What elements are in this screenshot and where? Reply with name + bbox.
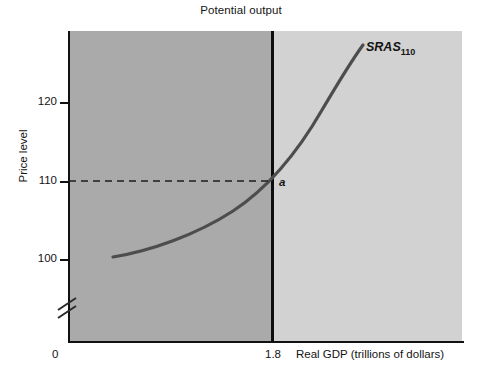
- y-tick-mark-100: [60, 259, 68, 261]
- x-axis-line: [68, 341, 464, 343]
- plot-area: [68, 31, 462, 341]
- x-axis-label: Real GDP (trillions of dollars): [296, 348, 444, 360]
- y-tick-mark-120: [60, 102, 68, 104]
- y-axis-label: Price level: [17, 111, 29, 201]
- sras-curve-label-subscript: 110: [401, 47, 416, 57]
- y-tick-mark-110: [60, 181, 68, 183]
- chart-title: Potential output: [0, 4, 482, 16]
- sras-curve-label-main: SRAS: [366, 40, 401, 54]
- y-tick-label-100: 100: [13, 252, 57, 264]
- shaded-region-below-potential: [68, 31, 272, 341]
- potential-output-vertical-line: [271, 31, 274, 342]
- sras-curve-label: SRAS110: [366, 40, 415, 57]
- y-tick-label-120: 120: [13, 95, 57, 107]
- x-tick-label-1-8: 1.8: [258, 348, 288, 360]
- shaded-region-above-potential: [272, 31, 462, 341]
- origin-label: 0: [52, 348, 58, 360]
- equilibrium-point-label-a: a: [279, 176, 285, 188]
- sras-chart-figure: Potential output 120 110 100 Price level…: [0, 0, 482, 380]
- y-axis-line: [68, 31, 70, 343]
